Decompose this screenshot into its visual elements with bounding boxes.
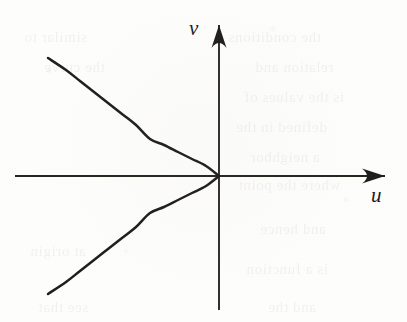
u-axis-label: u <box>371 183 382 208</box>
parabola-lower-branch <box>48 176 219 294</box>
v-axis-label: v <box>189 16 198 41</box>
uv-plane-plot <box>0 0 407 322</box>
parabola-upper-branch <box>48 58 219 176</box>
figure-container: the conditionsrelation andis the values … <box>0 0 407 322</box>
axis-group <box>15 25 385 310</box>
